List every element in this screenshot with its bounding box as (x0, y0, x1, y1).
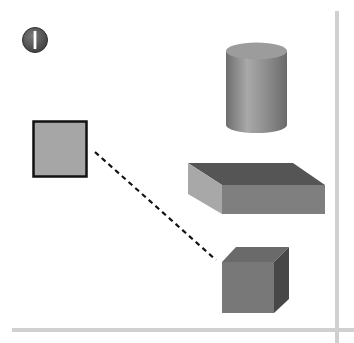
cylinder-shape (226, 43, 287, 134)
diagram-canvas (0, 0, 354, 343)
square-shape (34, 122, 87, 177)
roman-numeral-one-badge-icon (23, 28, 48, 53)
horizontal-axis-line (12, 328, 354, 332)
cube-shape (222, 247, 289, 313)
vertical-axis-line (335, 11, 339, 343)
slab-shape (188, 163, 325, 214)
